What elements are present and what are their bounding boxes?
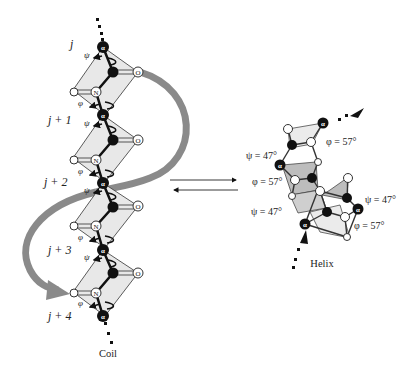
svg-text:N: N	[93, 89, 98, 97]
coil-caption: Coil	[99, 348, 117, 359]
svg-text:O: O	[135, 270, 140, 278]
chain-dots-bottom	[104, 322, 113, 344]
svg-text:α: α	[101, 44, 105, 52]
svg-text:α: α	[101, 180, 105, 188]
svg-text:φ: φ	[78, 166, 83, 176]
helix-angle-psi-1: ψ = 47°	[246, 150, 277, 161]
alpha-carbon-j3: α	[97, 244, 109, 256]
svg-text:α: α	[356, 206, 360, 214]
coil-chain: α α α α α O O	[42, 18, 143, 359]
svg-text:O: O	[135, 137, 140, 145]
coil-helix-diagram: α α α α α O O	[0, 0, 416, 375]
svg-text:O: O	[135, 203, 140, 211]
equilibrium-arrows	[170, 180, 238, 190]
svg-text:ψ: ψ	[84, 118, 90, 128]
svg-text:α: α	[278, 162, 282, 170]
alpha-carbon-j4: α	[97, 310, 109, 322]
svg-text:O: O	[135, 69, 140, 77]
chain-dots-top	[96, 18, 104, 41]
helix-caption: Helix	[310, 258, 334, 269]
residue-label-j1: j + 1	[46, 113, 71, 127]
svg-text:ψ: ψ	[84, 185, 90, 195]
svg-text:α: α	[101, 313, 105, 321]
oxygen-atoms: O O O O	[133, 67, 143, 278]
helix-angle-psi-2: ψ = 47°	[365, 194, 396, 205]
helix-structure: α α α α φ = 57° ψ = 47° φ = 57° ψ = 47° …	[246, 108, 396, 269]
svg-text:N: N	[93, 157, 98, 165]
svg-text:N: N	[93, 223, 98, 231]
helix-angle-psi-3: ψ = 47°	[251, 206, 282, 217]
residue-label-j2: j + 2	[42, 175, 67, 189]
svg-text:α: α	[303, 221, 307, 229]
alpha-carbon-j2: α	[97, 177, 109, 189]
alpha-carbon-j1: α	[97, 109, 109, 121]
helix-angle-phi-1: φ = 57°	[326, 136, 356, 147]
residue-label-j3: j + 3	[46, 243, 71, 257]
svg-text:α: α	[321, 120, 325, 128]
alpha-carbon-j: α	[97, 41, 109, 53]
svg-text:α: α	[101, 112, 105, 120]
svg-text:φ: φ	[78, 232, 83, 242]
residue-label-j4: j + 4	[46, 309, 71, 323]
svg-text:φ: φ	[78, 98, 83, 108]
residue-label-j: j	[68, 37, 74, 51]
svg-text:φ: φ	[78, 298, 83, 308]
svg-text:ψ: ψ	[84, 50, 90, 60]
svg-text:N: N	[93, 290, 98, 298]
svg-text:α: α	[101, 247, 105, 255]
helix-angle-phi-3: φ = 57°	[354, 220, 384, 231]
helix-angle-phi-2: φ = 57°	[252, 176, 282, 187]
svg-text:ψ: ψ	[84, 252, 90, 262]
